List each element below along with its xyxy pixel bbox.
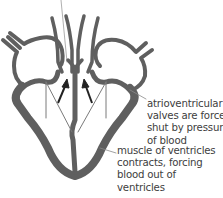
muscle-label: muscle of ventricles contracts, forcing … [117,145,215,194]
valves-label-line: atrioventricular [147,98,223,110]
septum [72,68,75,172]
muscle-label-line: muscle of ventricles [117,145,215,157]
muscle-label-line: blood out of [117,169,215,181]
right-ventricle-top-wall [92,72,130,90]
muscle-label-line: contracts, forcing [117,157,215,169]
valves-label-line: valves are forced [147,110,223,122]
right-blood-flow-arrow-icon [82,79,92,103]
valves-label: atrioventricular valves are forced shut … [147,98,223,147]
muscle-label-line: ventricles [117,182,215,194]
valves-label-line: shut by pressure [147,122,223,134]
left-ventricle-top-wall [22,72,58,88]
left-blood-flow-arrow-icon [58,79,69,103]
